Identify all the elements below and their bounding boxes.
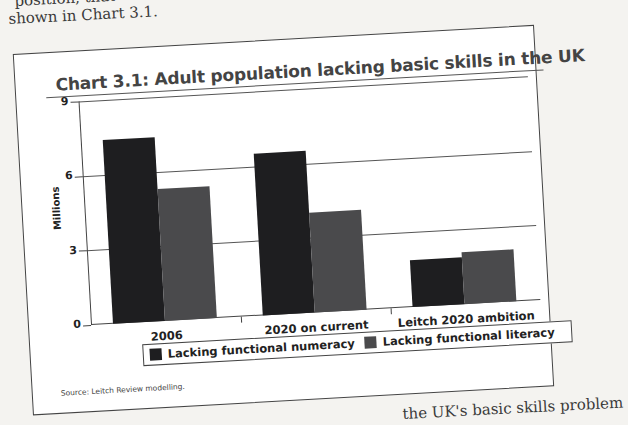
- y-tick-label: 6: [58, 169, 73, 183]
- bar-numeracy-2020-current: [254, 151, 315, 315]
- chart-figure: Chart 3.1: Adult population lacking basi…: [12, 7, 628, 425]
- y-tick: [79, 250, 87, 251]
- y-axis-title: Millions: [50, 186, 63, 230]
- y-tick: [75, 176, 83, 177]
- chart-source: Source: Leitch Review modelling.: [61, 382, 185, 398]
- bar-literacy-leitch-2020: [462, 249, 517, 304]
- y-tick-label: 9: [54, 95, 69, 109]
- plot-area: Millions 9 6 3 0 2006: [79, 76, 541, 325]
- literacy-swatch-icon: [364, 336, 377, 349]
- y-tick: [83, 325, 91, 326]
- numeracy-swatch-icon: [149, 348, 162, 361]
- y-axis: [79, 101, 93, 325]
- bar-numeracy-2006: [103, 137, 165, 324]
- legend-label-literacy: Lacking functional literacy: [382, 325, 555, 349]
- y-tick-label: 3: [62, 244, 77, 258]
- bar-literacy-2020-current: [309, 210, 366, 312]
- y-tick-label: 0: [67, 318, 82, 332]
- bar-numeracy-leitch-2020: [410, 257, 465, 307]
- chart-frame: Chart 3.1: Adult population lacking basi…: [13, 25, 554, 416]
- bar-literacy-2006: [158, 186, 217, 321]
- y-tick: [71, 101, 79, 102]
- x-tick: [391, 308, 392, 314]
- x-tick: [241, 317, 242, 323]
